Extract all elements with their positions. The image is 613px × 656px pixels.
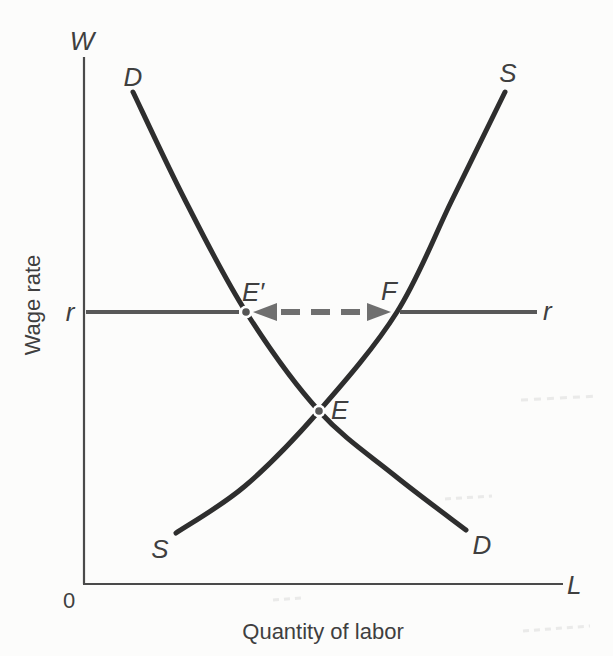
point-e-prime-dot	[242, 308, 250, 316]
labor-market-chart: W D S r E′ F E r S D L 0 Wage rate Quant…	[0, 0, 613, 656]
point-label-f: F	[381, 276, 399, 306]
scan-smudge	[445, 496, 492, 499]
point-label-e: E	[331, 395, 349, 425]
scan-smudge	[273, 598, 302, 600]
scan-smudge	[523, 626, 590, 631]
floor-label-left: r	[66, 297, 76, 327]
demand-label-bottom: D	[473, 530, 492, 560]
scan-smudge	[521, 396, 598, 400]
scan-smudges	[273, 396, 598, 631]
supply-label-top: S	[499, 58, 517, 88]
origin-label: 0	[63, 588, 75, 613]
demand-label-top: D	[124, 62, 143, 92]
labor-market-figure: W D S r E′ F E r S D L 0 Wage rate Quant…	[0, 0, 613, 656]
x-axis-title: Quantity of labor	[242, 619, 403, 644]
supply-label-bottom: S	[151, 534, 169, 564]
x-axis-variable: L	[567, 570, 581, 600]
point-label-e-prime: E′	[242, 277, 265, 307]
y-axis-variable: W	[70, 26, 97, 56]
y-axis-title: Wage rate	[20, 255, 45, 356]
floor-label-right: r	[543, 296, 553, 326]
point-e-dot	[315, 407, 323, 415]
